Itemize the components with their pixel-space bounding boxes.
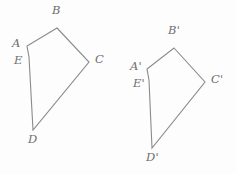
vertex-label-d: D <box>28 134 37 146</box>
vertex-label-c: C <box>95 54 104 66</box>
vertex-label-e: E <box>14 55 23 67</box>
vertex-label-b-prime: B' <box>168 25 180 37</box>
vertex-label-a-prime: A' <box>130 61 142 73</box>
pentagon-abcde-outline <box>27 28 89 130</box>
pentagon-abcde-prime-outline <box>147 48 205 148</box>
vertex-label-e-prime: E' <box>133 78 145 90</box>
vertex-label-c-prime: C' <box>211 74 223 86</box>
geometry-figure-canvas <box>0 0 236 174</box>
vertex-label-b: B <box>52 5 61 17</box>
vertex-label-d-prime: D' <box>146 152 159 164</box>
vertex-label-a: A <box>12 38 21 50</box>
